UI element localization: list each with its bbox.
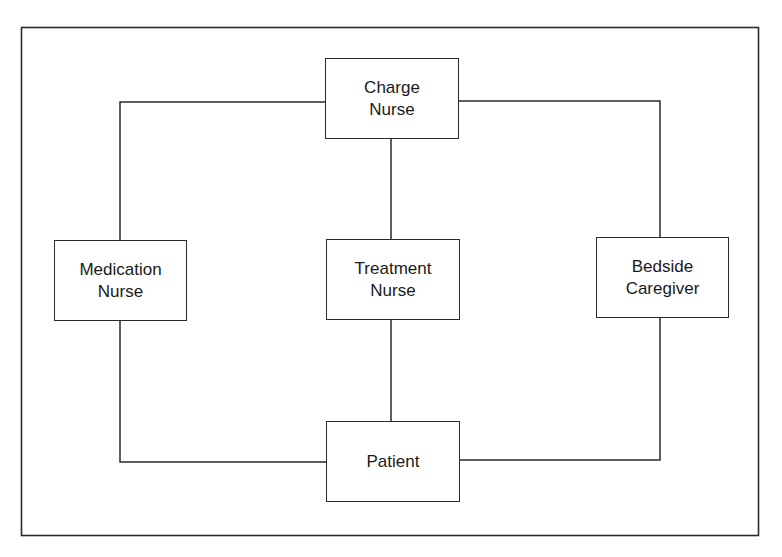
node-label-line1: Medication <box>79 259 161 281</box>
node-label-line2: Nurse <box>98 281 143 303</box>
node-label: Patient <box>367 451 420 473</box>
node-label-line1: Treatment <box>355 258 432 280</box>
node-label-line1: Bedside <box>632 256 693 278</box>
node-treatment-nurse: Treatment Nurse <box>326 239 460 320</box>
node-bedside-caregiver: Bedside Caregiver <box>596 237 729 318</box>
connector-bedside-patient <box>459 317 660 460</box>
node-label-line2: Nurse <box>369 99 414 121</box>
node-patient: Patient <box>326 421 460 502</box>
node-charge-nurse: Charge Nurse <box>325 58 459 139</box>
connector-charge-bedside <box>458 101 660 237</box>
node-label-line2: Nurse <box>370 280 415 302</box>
connector-charge-medication <box>120 102 325 240</box>
node-medication-nurse: Medication Nurse <box>54 240 187 321</box>
node-label-line1: Charge <box>364 77 420 99</box>
connector-medication-patient <box>120 320 326 462</box>
node-label-line2: Caregiver <box>626 278 700 300</box>
